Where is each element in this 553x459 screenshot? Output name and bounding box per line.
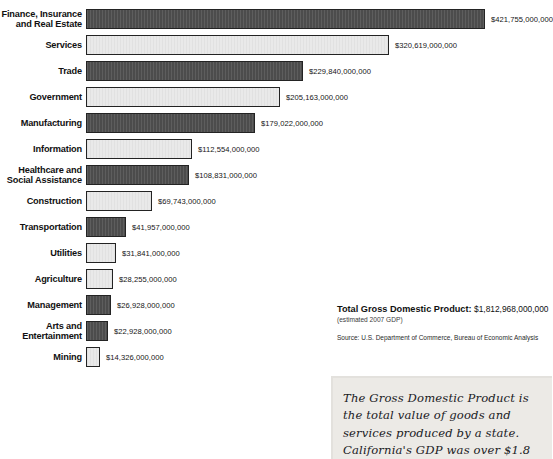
chart-row: Trade$229,840,000,000 [0,58,552,84]
bar-category-label-line: Utilities [50,248,82,258]
chart-row: Services$320,619,000,000 [0,32,552,58]
bar-value-label: $69,743,000,000 [158,191,216,211]
bar-category-label-line: Mining [53,352,82,362]
bar-category-label: Finance, Insuranceand Real Estate [0,6,86,32]
bar-category-label: Management [0,292,86,318]
top-rule-remnant [86,0,552,3]
bar-track: $179,022,000,000 [86,113,552,133]
chart-row: Finance, Insuranceand Real Estate$421,75… [0,6,552,32]
bar-value-label: $28,255,000,000 [119,269,177,289]
chart-row: Manufacturing$179,022,000,000 [0,110,552,136]
bar-category-label: Government [0,84,86,110]
bar [86,87,280,107]
chart-row: Construction$69,743,000,000 [0,188,552,214]
bar-value-label: $41,957,000,000 [132,217,190,237]
source-attribution: Source: U.S. Department of Commerce, Bur… [337,333,552,342]
bar-value-label: $108,831,000,000 [195,165,257,185]
bar [86,139,192,159]
bar-track: $69,743,000,000 [86,191,552,211]
chart-row: Mining$14,326,000,000 [0,344,552,370]
bar-track: $31,841,000,000 [86,243,552,263]
bar-category-label-line: Healthcare and [18,165,82,175]
bar-value-label: $31,841,000,000 [122,243,180,263]
bar-category-label-line: Management [27,300,82,310]
bar-value-label: $26,928,000,000 [117,295,175,315]
bar-category-label: Mining [0,344,86,370]
bar-category-label-line: Government [29,92,82,102]
bar-category-label-line: Transportation [20,222,82,232]
gdp-definition-callout: The Gross Domestic Product is the total … [331,376,552,459]
bar-category-label: Construction [0,188,86,214]
bar [86,269,113,289]
bar-category-label-line: Agriculture [35,274,82,284]
bar [86,35,389,55]
bar-value-label: $22,928,000,000 [114,321,172,341]
bar-value-label: $112,554,000,000 [198,139,259,159]
bar-value-label: $205,163,000,000 [286,87,348,107]
bar [86,243,116,263]
bar-category-label: Information [0,136,86,162]
bar [86,113,255,133]
bar-value-label: $229,840,000,000 [309,61,371,81]
gdp-definition-text: The Gross Domestic Product is the total … [331,376,552,459]
bar [86,347,100,367]
bar [86,9,485,29]
bar [86,165,189,185]
bar [86,321,108,341]
bar-category-label-line: Information [33,144,82,154]
chart-row: Agriculture$28,255,000,000 [0,266,552,292]
bar [86,191,152,211]
total-gdp-label: Total Gross Domestic Product: [337,304,472,314]
bar-category-label: Manufacturing [0,110,86,136]
bar-category-label: Services [0,32,86,58]
bar-category-label-line: Services [45,40,82,50]
chart-row: Government$205,163,000,000 [0,84,552,110]
chart-row: Healthcare andSocial Assistance$108,831,… [0,162,552,188]
bar-track: $108,831,000,000 [86,165,552,185]
bar-track: $205,163,000,000 [86,87,552,107]
bar-track: $41,957,000,000 [86,217,552,237]
bar-value-label: $179,022,000,000 [261,113,323,133]
bar-category-label: Trade [0,58,86,84]
bar-category-label-line: Social Assistance [7,175,82,185]
bar-category-label-line: Arts and [46,321,82,331]
bar-track: $28,255,000,000 [86,269,552,289]
bar-category-label: Arts andEntertainment [0,318,86,344]
bar-category-label: Transportation [0,214,86,240]
total-gdp-note: (estimated 2007 GDP) [337,315,552,324]
bar-category-label-line: Trade [58,66,82,76]
bar-category-label-line: Entertainment [22,331,82,341]
bar [86,61,303,81]
bar-category-label: Utilities [0,240,86,266]
chart-row: Transportation$41,957,000,000 [0,214,552,240]
bar [86,295,111,315]
bar-track: $14,326,000,000 [86,347,552,367]
bar-category-label-line: and Real Estate [16,19,82,29]
chart-row: Information$112,554,000,000 [0,136,552,162]
bar-value-label: $320,619,000,000 [395,35,457,55]
bar-track: $421,755,000,000 [86,9,552,29]
total-gdp-line: Total Gross Domestic Product: $1,812,968… [337,304,552,315]
total-gdp-value: $1,812,968,000,000 [474,304,549,314]
bar-category-label-line: Construction [27,196,82,206]
bar-category-label-line: Manufacturing [21,118,82,128]
bar-track: $112,554,000,000 [86,139,552,159]
bar-value-label: $14,326,000,000 [106,347,164,367]
bar-track: $229,840,000,000 [86,61,552,81]
bar [86,217,126,237]
bar-category-label: Agriculture [0,266,86,292]
chart-row: Utilities$31,841,000,000 [0,240,552,266]
totals-block: Total Gross Domestic Product: $1,812,968… [337,304,552,342]
bar-value-label: $421,755,000,000 [491,9,553,29]
bar-track: $320,619,000,000 [86,35,552,55]
bar-category-label: Healthcare andSocial Assistance [0,162,86,188]
bar-category-label-line: Finance, Insurance [1,9,82,19]
